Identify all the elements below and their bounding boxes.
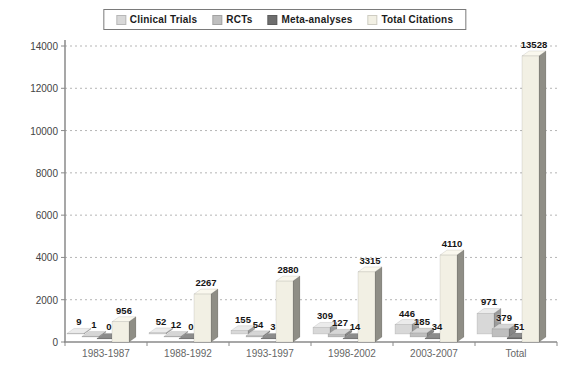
bar-value-label: 971 [481, 296, 497, 307]
bar-value-label: 3315 [359, 255, 380, 266]
x-category-label: 1988-1992 [164, 348, 212, 359]
bar-side-face [375, 267, 382, 342]
bar [246, 336, 263, 337]
x-category-label: 1983-1987 [82, 348, 130, 359]
bar-value-label: 379 [496, 312, 512, 323]
bar [149, 333, 166, 334]
bar-value-label: 155 [235, 314, 251, 325]
bar-value-label: 0 [188, 321, 193, 332]
bar [313, 327, 330, 334]
bar [67, 333, 84, 334]
x-category-label: 1993-1997 [246, 348, 294, 359]
bar [395, 325, 412, 334]
bar-value-label: 52 [156, 316, 167, 327]
bar [328, 334, 345, 337]
bar-side-face [211, 289, 218, 342]
bar-value-label: 34 [432, 321, 443, 332]
bar [276, 281, 293, 342]
bar [492, 329, 509, 337]
y-tick-label: 0 [2, 337, 58, 348]
bar-value-label: 956 [116, 305, 132, 316]
bar [477, 313, 494, 334]
bar [82, 336, 99, 337]
bar [97, 338, 114, 339]
bar-value-label: 3 [270, 321, 275, 332]
bar-value-label: 1 [91, 319, 96, 330]
bar-value-label: 127 [332, 317, 348, 328]
bar-value-label: 446 [399, 308, 415, 319]
bar [343, 338, 360, 339]
bar-value-label: 12 [171, 319, 182, 330]
y-tick-label: 2000 [2, 295, 58, 306]
bar-value-label: 185 [414, 316, 430, 327]
bar-value-label: 2267 [195, 277, 216, 288]
y-tick-label: 4000 [2, 252, 58, 263]
bar [522, 56, 539, 342]
bar-side-face [293, 276, 300, 342]
bar-value-label: 51 [514, 321, 525, 332]
bar [112, 322, 129, 342]
bar [179, 338, 196, 339]
chart-figure: Clinical TrialsRCTsMeta-analysesTotal Ci… [0, 0, 569, 365]
bar [194, 294, 211, 342]
bar [261, 338, 278, 339]
bar-value-label: 14 [350, 321, 361, 332]
chart-plot-area [0, 0, 569, 365]
bar-value-label: 54 [253, 319, 264, 330]
bar-side-face [539, 51, 546, 342]
bar [410, 333, 427, 337]
bar-value-label: 4110 [442, 238, 463, 249]
x-category-label: Total [505, 348, 526, 359]
bar [231, 331, 248, 334]
bar-value-label: 309 [317, 310, 333, 321]
y-tick-label: 6000 [2, 210, 58, 221]
y-tick-label: 8000 [2, 168, 58, 179]
bar-side-face [457, 250, 464, 342]
y-tick-label: 10000 [2, 126, 58, 137]
bar-value-label: 9 [76, 316, 81, 327]
x-category-label: 2003-2007 [410, 348, 458, 359]
y-tick-label: 12000 [2, 83, 58, 94]
y-tick-label: 14000 [2, 41, 58, 52]
bar-value-label: 13528 [521, 39, 547, 50]
bar-value-label: 2880 [277, 264, 298, 275]
x-category-label: 1998-2002 [328, 348, 376, 359]
bar [425, 338, 442, 339]
bar [507, 338, 524, 339]
bar [164, 336, 181, 337]
bar-value-label: 0 [106, 321, 111, 332]
